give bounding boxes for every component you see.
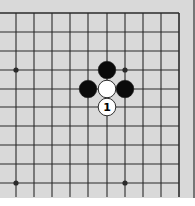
star-point-icon	[13, 180, 18, 185]
white-stone	[98, 80, 116, 98]
black-stone	[79, 80, 97, 98]
move-number-label: 1	[103, 101, 111, 114]
white-stone: 1	[98, 98, 116, 116]
black-stone	[98, 61, 116, 79]
board-background	[0, 0, 195, 198]
black-stone	[116, 80, 134, 98]
star-point-icon	[122, 67, 127, 72]
star-point-icon	[122, 180, 127, 185]
star-point-icon	[13, 67, 18, 72]
go-board-diagram: 1	[0, 0, 195, 206]
